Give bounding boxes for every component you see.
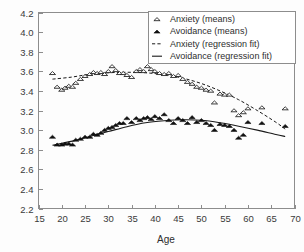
y-tick-label: 3.4 [20, 86, 33, 97]
anxiety-data-point [245, 107, 251, 110]
x-axis-ticks [40, 205, 296, 209]
avoidance-data-point [49, 135, 55, 138]
anxiety-data-point [180, 77, 186, 80]
y-tick-label: 2.6 [20, 164, 33, 175]
anxiety-data-point [98, 71, 104, 74]
y-tick-label: 4.0 [20, 27, 33, 38]
anxiety-data-point [217, 92, 223, 95]
y-axis-tick-labels: 2.22.42.62.83.03.23.43.63.84.04.2 [20, 8, 33, 215]
y-tick-label: 2.2 [20, 204, 33, 215]
avoidance-data-point [282, 124, 288, 127]
anxiety-data-point [144, 65, 150, 68]
avoidance-data-point [245, 120, 251, 123]
anxiety-data-point [175, 73, 181, 76]
x-axis-title: Age [157, 234, 175, 245]
avoidance-data-point [240, 133, 246, 136]
x-tick-label: 55 [220, 213, 231, 224]
anxiety-data-point [109, 65, 115, 68]
avoidance-data-point [184, 121, 190, 124]
anxiety-data-point [105, 70, 111, 73]
y-tick-label: 3.8 [20, 47, 33, 58]
avoidance-data-point [211, 128, 217, 131]
x-tick-label: 40 [150, 213, 161, 224]
age-anxiety-avoidance-scatter-chart: 2.22.42.62.83.03.23.43.63.84.04.2 152025… [0, 0, 304, 252]
chart-legend: Anxiety (means)Avoidance (means)Anxiety … [149, 12, 296, 64]
y-axis-ticks [39, 14, 43, 210]
avoidance-data-point [128, 120, 134, 123]
x-tick-label: 20 [57, 213, 68, 224]
anxiety-data-point [282, 107, 288, 110]
legend-entry-label: Avoidance (means) [170, 26, 247, 36]
avoidance-data-point [144, 116, 150, 119]
avoidance-data-point [236, 136, 242, 139]
legend-entry-label: Avoidance (regression fit) [170, 51, 272, 61]
anxiety-data-point [211, 101, 217, 104]
anxiety-data-point [166, 71, 172, 74]
avoidance-data-point [133, 117, 139, 120]
anxiety-data-point [231, 109, 237, 112]
avoidance-data-point [231, 128, 237, 131]
avoidance-data-point [259, 121, 265, 124]
anxiety-data-point [49, 71, 55, 74]
chart-figure: 2.22.42.62.83.03.23.43.63.84.04.2 152025… [0, 0, 304, 252]
y-tick-label: 2.4 [20, 184, 33, 195]
avoidance-data-point [175, 117, 181, 120]
x-tick-label: 15 [34, 213, 45, 224]
anxiety-means-points [49, 65, 288, 117]
avoidance-data-point [161, 113, 167, 116]
x-tick-label: 45 [173, 213, 184, 224]
legend-entry-label: Anxiety (regression fit) [170, 39, 260, 49]
x-tick-label: 25 [80, 213, 91, 224]
y-tick-label: 3.2 [20, 106, 33, 117]
x-tick-label: 60 [243, 213, 254, 224]
y-tick-label: 3.0 [20, 125, 33, 136]
anxiety-data-point [54, 85, 60, 88]
avoidance-data-point [124, 117, 130, 120]
avoidance-data-point [152, 115, 158, 118]
anxiety-data-point [259, 106, 265, 109]
x-tick-label: 50 [196, 213, 207, 224]
anxiety-data-point [73, 81, 79, 84]
y-tick-label: 4.2 [20, 8, 33, 19]
y-tick-label: 3.6 [20, 66, 33, 77]
avoidance-data-point [203, 121, 209, 124]
avoidance-data-point [170, 121, 176, 124]
anxiety-data-point [113, 69, 119, 72]
anxiety-data-point [240, 111, 246, 114]
legend-entry-label: Anxiety (means) [170, 14, 235, 24]
x-tick-label: 30 [103, 213, 114, 224]
anxiety-data-point [137, 68, 143, 71]
x-tick-label: 70 [290, 213, 301, 224]
x-axis-tick-labels: 152025303540455055606570 [34, 213, 301, 224]
y-tick-label: 2.8 [20, 145, 33, 156]
x-tick-label: 65 [266, 213, 277, 224]
avoidance-data-point [189, 116, 195, 119]
x-tick-label: 35 [127, 213, 138, 224]
